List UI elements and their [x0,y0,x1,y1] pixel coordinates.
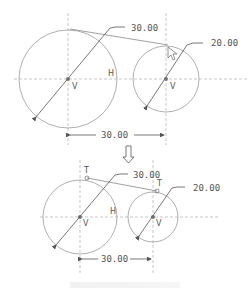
large-side-label: H [110,207,116,216]
small-diameter-leader [172,187,185,188]
small-center-label: V [170,82,176,91]
small-diameter-label[interactable]: 20.00 [211,38,238,48]
small-tangent-label: T [156,179,162,188]
large-diameter-label[interactable]: 30.00 [133,170,160,180]
large-center-label: V [72,82,78,91]
small-diameter-dimension-line [147,45,187,106]
large-tangent-label: T [83,166,89,175]
figure-caption-faint [70,282,180,288]
large-center-label: V [83,219,89,228]
large-diameter-label[interactable]: 30.00 [131,23,158,33]
small-diameter-dimension-line [139,188,172,236]
sketch-diagram: 30.00 20.00 V V H 30.00 T T 30.00 [0,0,249,289]
large-side-label: H [108,69,114,78]
small-diameter-label[interactable]: 20.00 [193,183,220,193]
down-arrow-icon [123,146,134,163]
large-diameter-leader [110,27,125,28]
center-distance-label[interactable]: 30.00 [101,130,128,140]
pointer-arrow-icon [168,47,177,60]
center-distance-label[interactable]: 30.00 [101,254,128,264]
bottom-diagram: T T 30.00 20.00 V V H 30.00 [40,160,220,275]
small-center-label: V [156,219,162,228]
large-diameter-dimension-line [36,28,110,117]
tangent-constraint-figure: 30.00 20.00 V V H 30.00 T T 30.00 [0,0,249,289]
large-diameter-dimension-line [56,175,115,245]
top-diagram: 30.00 20.00 V V H 30.00 [14,13,249,145]
small-diameter-leader [187,43,203,45]
large-diameter-leader [115,174,128,175]
